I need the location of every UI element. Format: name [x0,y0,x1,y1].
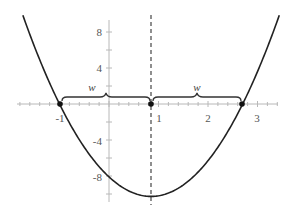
y-tick-label: 4 [97,62,103,74]
left-width-brace [62,93,150,101]
x-tick-label: -1 [55,112,64,124]
x-tick-labels: -1 1 2 3 [55,112,260,124]
midpoint-point [148,101,154,107]
y-tick-label: -8 [93,171,103,183]
x-tick-label: 3 [254,112,260,124]
right-width-label: w [193,81,201,93]
y-tick-label: 8 [97,26,103,38]
right-width-brace [153,93,241,101]
x-tick-label: 1 [156,112,162,124]
parabola-chart: -1 1 2 3 8 4 -4 -8 w w [0,0,293,214]
left-width-label: w [88,81,96,93]
left-root-point [57,101,63,107]
x-tick-label: 2 [205,112,211,124]
y-tick-label: -4 [93,135,103,147]
right-root-point [239,101,245,107]
